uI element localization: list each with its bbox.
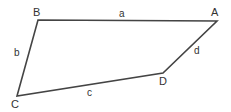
quadrilateral-outline <box>17 20 217 96</box>
side-label-c: c <box>87 88 92 98</box>
vertex-label-b: B <box>33 7 40 18</box>
vertex-label-c: C <box>11 99 19 110</box>
vertex-label-d: D <box>159 76 167 87</box>
side-label-d: d <box>194 46 200 56</box>
vertex-label-a: A <box>211 7 218 18</box>
quadrilateral-figure: B A C D a b c d <box>0 0 231 112</box>
side-label-a: a <box>119 9 125 19</box>
side-label-b: b <box>14 48 20 58</box>
